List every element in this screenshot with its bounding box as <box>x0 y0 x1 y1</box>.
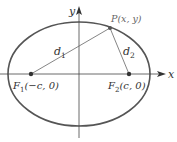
d2-name: d <box>123 45 130 58</box>
d1-label: d1 <box>54 45 66 60</box>
point-p <box>108 26 112 30</box>
y-axis-label: y <box>68 5 76 18</box>
point-p-label: P(x, y) <box>110 13 142 24</box>
ellipse-diagram: y x P(x, y) d1 d2 F1(−c, 0) F2(c, 0) <box>0 0 177 142</box>
f1-coords: (−c, 0) <box>24 80 59 91</box>
d1-name: d <box>54 45 61 58</box>
f2-coords: (c, 0) <box>119 80 145 91</box>
f1-label: F1(−c, 0) <box>12 80 59 94</box>
x-axis-label: x <box>168 68 175 81</box>
d2-label: d2 <box>123 45 135 60</box>
focus-f2-point <box>127 72 131 76</box>
focus-f1-point <box>29 72 33 76</box>
f2-label: F2(c, 0) <box>107 80 146 94</box>
d1-subscript: 1 <box>61 51 66 60</box>
segment-d1 <box>31 28 110 74</box>
d2-subscript: 2 <box>130 51 135 60</box>
diagram-svg: y x P(x, y) d1 d2 F1(−c, 0) F2(c, 0) <box>0 0 177 142</box>
